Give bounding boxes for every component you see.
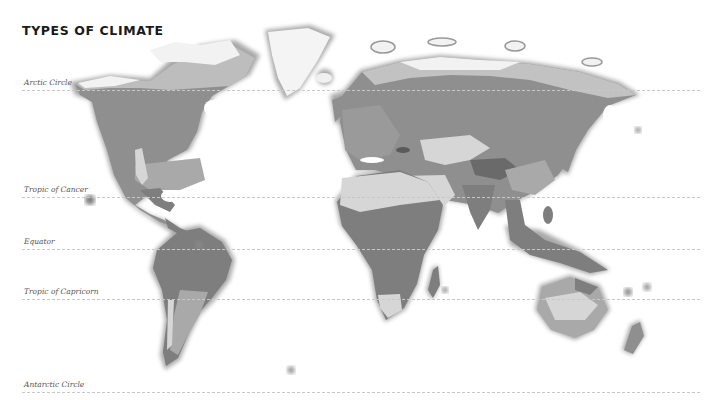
equator-label: Equator — [24, 237, 55, 246]
tropic-of-cancer-line — [22, 197, 700, 198]
antarctic-circle-line — [22, 392, 700, 393]
world-climate-map — [0, 0, 718, 400]
equator-line — [22, 249, 700, 250]
arctic-circle-line — [22, 90, 700, 91]
tropic-of-capricorn-line — [22, 299, 700, 300]
tropic-of-cancer-label: Tropic of Cancer — [24, 185, 88, 194]
tropic-of-capricorn-label: Tropic of Capricorn — [24, 287, 99, 296]
arctic-circle-label: Arctic Circle — [24, 78, 72, 87]
antarctic-circle-label: Antarctic Circle — [24, 380, 84, 389]
